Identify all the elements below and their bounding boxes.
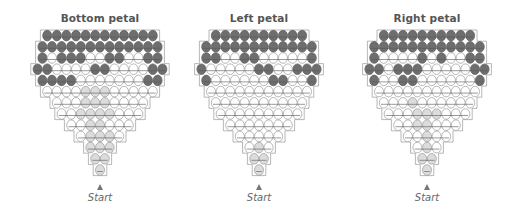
bead [240,98,249,109]
bead [427,42,436,53]
bead [72,30,81,41]
bead [120,30,129,41]
bead [274,86,283,97]
bead [394,86,403,97]
bead [235,86,244,97]
bead [245,120,254,131]
bead [67,53,76,64]
bead [52,98,61,109]
bead [447,98,456,109]
bead [274,64,283,75]
bead [466,98,475,109]
start-label: Start [239,192,279,203]
bead [394,64,403,75]
bead [413,131,422,142]
bead [413,109,422,120]
bead [264,109,273,120]
bead [72,98,81,109]
bead [442,109,451,120]
bead [197,64,206,75]
bead [48,53,57,64]
bead [293,64,302,75]
bead [250,98,259,109]
bead [144,53,153,64]
bead [115,42,124,53]
bead [456,75,465,86]
bottom-petal-panel: Bottom petal Start [14,0,186,213]
bead [67,42,76,53]
bead [226,109,235,120]
bead [456,30,465,41]
bead [124,75,133,86]
bead [240,53,249,64]
bead [423,64,432,75]
bead [52,30,61,41]
bead [423,120,432,131]
bead [418,30,427,41]
bead [231,42,240,53]
bead [394,120,403,131]
bead [245,109,254,120]
bead [240,42,249,53]
bead [269,30,278,41]
bead [124,53,133,64]
bead [298,53,307,64]
right-petal-panel: Right petal Start [341,0,513,213]
bead [447,53,456,64]
bead [120,86,129,97]
bead [283,64,292,75]
bead [110,98,119,109]
bead [86,131,95,142]
bead [408,42,417,53]
bead [52,64,61,75]
bead [86,142,95,153]
bead [144,75,153,86]
bead [298,42,307,53]
left-petal-panel: Left petal Start [173,0,345,213]
bead [240,75,249,86]
bead [442,86,451,97]
bead [115,109,124,120]
bead [427,154,436,165]
bead [475,75,484,86]
bead [466,42,475,53]
bead [207,86,216,97]
bead [115,131,124,142]
bead [124,42,133,53]
bead [110,64,119,75]
bead [211,42,220,53]
bead [375,64,384,75]
bead [124,120,133,131]
bead [148,64,157,75]
bead [96,120,105,131]
bead [115,75,124,86]
bead [423,86,432,97]
bead [221,30,230,41]
bead [48,75,57,86]
bead [461,86,470,97]
bead [418,98,427,109]
bead [231,30,240,41]
start-label: Start [407,192,447,203]
bead [231,53,240,64]
bead [110,30,119,41]
bead [475,42,484,53]
bead [153,42,162,53]
bead [264,120,273,131]
bead [221,53,230,64]
bead [389,30,398,41]
bead [408,98,417,109]
bead [259,154,268,165]
bead [403,86,412,97]
bead [144,42,153,53]
bead [269,75,278,86]
bead [269,53,278,64]
bead [399,75,408,86]
bead [255,142,264,153]
bead [365,64,374,75]
bead [399,30,408,41]
bead [423,165,432,176]
bead [211,98,220,109]
bead [418,42,427,53]
bead [96,109,105,120]
